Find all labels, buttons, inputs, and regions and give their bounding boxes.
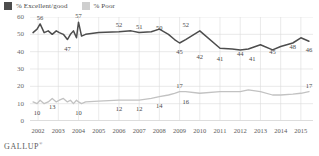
x-axis-tick-label: 2010 — [193, 127, 206, 134]
data-point-label: 12 — [136, 105, 143, 112]
data-point-label: 52 — [116, 20, 123, 27]
gallup-registered-mark: ® — [39, 141, 43, 146]
x-axis-tick-label: 2006 — [112, 127, 125, 134]
y-axis-tick-label: 60 — [17, 13, 24, 21]
data-point-label: 46 — [306, 46, 313, 53]
data-point-label: 42 — [197, 53, 204, 60]
chart-svg — [30, 17, 313, 121]
data-point-label: 41 — [249, 54, 256, 61]
x-axis-tick-label: 2003 — [52, 127, 65, 134]
gallup-brand: GALLUP® — [4, 141, 43, 151]
y-axis-tick-label: 30 — [17, 65, 24, 73]
data-point-label: 10 — [34, 108, 41, 115]
legend-swatch-excellent-good — [4, 2, 12, 10]
plot-area — [30, 17, 313, 121]
y-axis-labels: 0102030405060 — [0, 17, 28, 121]
y-axis-tick-label: 50 — [17, 30, 24, 38]
x-axis-tick-label: 2013 — [254, 127, 267, 134]
x-axis-tick-label: 2011 — [214, 127, 227, 134]
x-axis-tick-label: 2005 — [92, 127, 105, 134]
x-axis-tick-label: 2004 — [72, 127, 85, 134]
x-axis-tick-label: 2009 — [173, 127, 186, 134]
y-axis-tick-label: 20 — [17, 82, 24, 90]
gallup-brand-text: GALLUP — [4, 142, 39, 151]
data-point-label: 10 — [75, 108, 82, 115]
x-axis-tick-label: 2008 — [153, 127, 166, 134]
data-point-label: 45 — [176, 48, 183, 55]
data-point-label: 45 — [269, 48, 276, 55]
data-point-label: 48 — [290, 42, 297, 49]
data-point-label: 17 — [306, 81, 313, 88]
data-point-label: 52 — [182, 20, 189, 27]
series-line-excellent-good — [33, 22, 309, 50]
legend-swatch-poor — [82, 2, 90, 10]
x-axis-tick-label: 2014 — [274, 127, 287, 134]
gallup-line-chart: % Excellent/good % Poor 0102030405060 20… — [0, 0, 319, 156]
x-axis-labels: 2002200320042005200620072008200920102011… — [30, 127, 313, 139]
data-point-label: 57 — [75, 12, 82, 19]
y-axis-tick-label: 0 — [21, 117, 25, 125]
x-axis-tick-label: 2002 — [32, 127, 45, 134]
data-point-label: 51 — [136, 22, 143, 29]
x-axis-tick-label: 2012 — [234, 127, 247, 134]
legend-item-excellent-good: % Excellent/good — [4, 2, 68, 10]
data-point-label: 17 — [176, 81, 183, 88]
data-point-label: 56 — [37, 13, 44, 20]
series-line-poor — [33, 90, 309, 104]
data-point-label: 50 — [156, 24, 163, 31]
legend-label-poor: % Poor — [94, 2, 115, 10]
chart-legend: % Excellent/good % Poor — [4, 2, 129, 10]
data-point-label: 44 — [237, 49, 244, 56]
y-axis-tick-label: 40 — [17, 48, 24, 56]
data-point-label: 47 — [64, 44, 71, 51]
data-point-label: 41 — [217, 54, 224, 61]
data-point-label: 13 — [49, 103, 56, 110]
data-point-label: 16 — [182, 98, 189, 105]
y-axis-tick-label: 10 — [17, 100, 24, 108]
data-point-label: 14 — [156, 101, 163, 108]
x-axis-tick-label: 2007 — [133, 127, 146, 134]
x-axis-tick-label: 2015 — [294, 127, 307, 134]
legend-item-poor: % Poor — [82, 2, 115, 10]
legend-label-excellent-good: % Excellent/good — [16, 2, 68, 10]
data-point-label: 12 — [116, 105, 123, 112]
